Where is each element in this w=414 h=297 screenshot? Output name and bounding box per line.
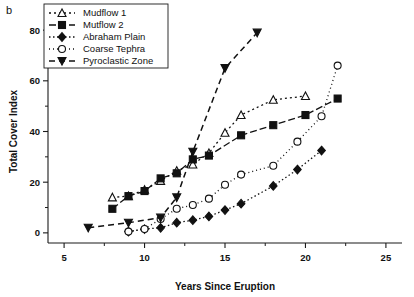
marker-filled-square (238, 132, 245, 139)
x-tick-label: 5 (61, 252, 67, 263)
chart-container: 020406080510152025Years Since EruptionTo… (0, 0, 414, 297)
marker-open-triangle-up (301, 92, 309, 100)
y-axis-title: Total Cover Index (8, 89, 19, 173)
marker-filled-diamond (173, 218, 181, 227)
marker-filled-square (59, 22, 66, 29)
marker-open-circle (270, 162, 277, 169)
marker-filled-square (270, 122, 277, 129)
x-tick-label: 20 (300, 252, 311, 263)
legend-label: Mudflow 1 (83, 7, 126, 18)
legend-label: Mutflow 2 (83, 19, 124, 30)
panel-label: b (6, 4, 12, 16)
marker-filled-diamond (294, 165, 302, 174)
marker-filled-diamond (205, 212, 213, 221)
marker-open-triangle-up (237, 111, 245, 119)
marker-open-circle (294, 138, 301, 145)
total-cover-index-line-chart: 020406080510152025Years Since EruptionTo… (0, 0, 414, 297)
y-tick-label: 0 (35, 227, 40, 238)
marker-filled-diamond (189, 216, 197, 225)
marker-filled-square (205, 152, 212, 159)
marker-open-circle (205, 195, 212, 202)
x-tick-label: 25 (381, 252, 392, 263)
marker-open-circle (189, 201, 196, 208)
marker-filled-square (125, 193, 132, 200)
y-tick-label: 80 (29, 25, 40, 36)
legend-label: Abraham Plain (83, 31, 145, 42)
marker-filled-diamond (221, 206, 229, 215)
y-tick-label: 60 (29, 75, 40, 86)
marker-filled-square (173, 170, 180, 177)
marker-filled-triangle-down (189, 148, 197, 156)
marker-open-circle (222, 181, 229, 188)
marker-filled-diamond (157, 223, 165, 232)
legend: Mudflow 1Mutflow 2Abraham PlainCoarse Te… (44, 4, 168, 68)
marker-filled-square (109, 205, 116, 212)
marker-open-circle (334, 62, 341, 69)
marker-open-circle (59, 46, 66, 53)
x-tick-label: 15 (220, 252, 231, 263)
marker-open-circle (238, 171, 245, 178)
marker-filled-square (302, 112, 309, 119)
marker-open-triangle-up (221, 129, 229, 137)
legend-label: Coarse Tephra (83, 43, 146, 54)
marker-filled-square (334, 95, 341, 102)
marker-filled-diamond (318, 146, 326, 155)
x-tick-label: 10 (139, 252, 150, 263)
marker-filled-square (157, 175, 164, 182)
y-tick-label: 20 (29, 177, 40, 188)
legend-label: Pyroclastic Zone (83, 55, 153, 66)
series-mutflow-2 (109, 95, 341, 212)
marker-filled-diamond (237, 199, 245, 208)
x-axis-title: Years Since Eruption (175, 281, 275, 292)
marker-open-triangle-up (108, 193, 116, 201)
marker-filled-diamond (269, 182, 277, 191)
marker-filled-triangle-down (221, 65, 229, 73)
marker-filled-square (141, 188, 148, 195)
series-coarse-tephra (125, 62, 341, 235)
legend-item-mutflow-2[interactable]: Mutflow 2 (49, 19, 124, 30)
y-tick-label: 40 (29, 126, 40, 137)
x-axis-ticks: 510152025 (61, 243, 391, 263)
marker-open-circle (125, 228, 132, 235)
marker-open-circle (141, 226, 148, 233)
marker-open-circle (318, 113, 325, 120)
marker-open-circle (173, 205, 180, 212)
